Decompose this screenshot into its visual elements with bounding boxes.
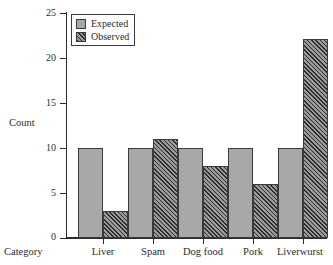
legend-label-expected: Expected xyxy=(91,18,128,29)
y-tick-label-25: 25 xyxy=(12,8,56,18)
bar-observed-liver xyxy=(103,211,128,238)
bar-expected-liver xyxy=(78,148,103,238)
legend-swatch-expected-icon xyxy=(76,19,86,29)
x-axis-title: Category xyxy=(4,246,43,257)
chart-legend: Expected Observed xyxy=(71,14,135,46)
x-tick-mark-3 xyxy=(203,239,204,244)
y-tick-label-5: 5 xyxy=(12,188,56,198)
y-tick-label-25-wrap: 25 xyxy=(8,8,56,18)
x-category-label-liver: Liver xyxy=(92,246,115,257)
x-category-label-pork: Pork xyxy=(243,246,263,257)
bar-observed-pork xyxy=(253,184,278,238)
legend-item-expected: Expected xyxy=(76,18,129,29)
y-tick-label-20: 20 xyxy=(12,53,56,63)
x-tick-mark-1 xyxy=(103,239,104,244)
y-tick-label-10: 10 xyxy=(12,143,56,153)
x-category-label-liverwurst: Liverwurst xyxy=(277,246,323,257)
y-tick-label-15: 15 xyxy=(12,98,56,108)
chart-figure: 25 20 15 10 5 0 Count Category xyxy=(0,0,333,265)
y-tick-mark-0 xyxy=(60,238,66,239)
bar-expected-dog-food xyxy=(178,148,203,238)
x-tick-mark-5 xyxy=(303,239,304,244)
x-tick-mark-2 xyxy=(153,239,154,244)
y-tick-label-5-wrap: 5 xyxy=(8,188,56,198)
bar-expected-pork xyxy=(228,148,253,238)
y-tick-label-20-wrap: 20 xyxy=(8,53,56,63)
x-tick-mark-4 xyxy=(253,239,254,244)
legend-label-observed: Observed xyxy=(91,31,129,42)
y-tick-label-0-wrap: 0 xyxy=(8,232,56,242)
legend-swatch-observed-icon xyxy=(76,32,86,42)
x-category-label-dog-food: Dog food xyxy=(183,246,223,257)
y-axis-title: Count xyxy=(9,117,35,128)
x-category-label-spam: Spam xyxy=(141,246,165,257)
y-tick-label-15-wrap: 15 xyxy=(8,98,56,108)
cropped-title-remnant xyxy=(78,0,248,3)
bar-expected-liverwurst xyxy=(278,148,303,238)
y-tick-label-0: 0 xyxy=(12,232,56,242)
bar-expected-spam xyxy=(128,148,153,238)
bar-observed-dog-food xyxy=(203,166,228,238)
legend-item-observed: Observed xyxy=(76,31,129,42)
bar-observed-liverwurst xyxy=(303,39,328,238)
y-tick-label-10-wrap: 10 xyxy=(8,143,56,153)
bar-observed-spam xyxy=(153,139,178,238)
